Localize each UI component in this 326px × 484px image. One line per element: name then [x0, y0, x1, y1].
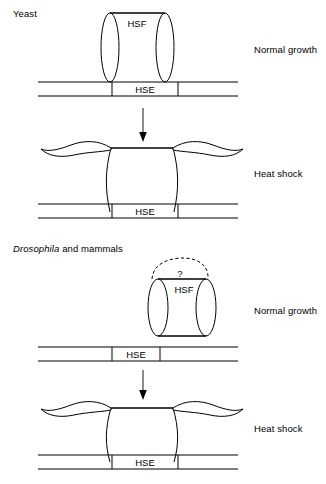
hsf-fly-left-end-ellipse: [148, 279, 168, 336]
hsf-left-end-ellipse: [101, 13, 119, 82]
hsf-left-wing: [41, 142, 111, 157]
hsf-hse-diagram: Yeast Normal growth Heat shock Drosophil…: [0, 0, 326, 484]
hsf-activated-yeast: [41, 142, 243, 212]
panel-yeast-normal: HSF HSE: [38, 13, 238, 96]
panel-fly-normal: ? HSF HSE: [38, 258, 238, 361]
hsf-right-wing-fly: [173, 402, 243, 417]
question-mark-label: ?: [177, 268, 182, 279]
transition-arrow-yeast: [139, 108, 147, 142]
dna-element-label-hse-yeast-normal: HSE: [135, 84, 155, 95]
panel-yeast-heatshock: HSE: [38, 142, 243, 218]
hsf-right-end-ellipse: [156, 13, 174, 82]
transition-arrow-fly: [139, 370, 147, 400]
dna-element-label-hse-fly-heatshock: HSE: [135, 457, 155, 468]
protein-label-hsf-yeast: HSF: [128, 18, 147, 29]
protein-label-hsf-fly: HSF: [175, 284, 194, 295]
hsf-right-wing: [173, 142, 243, 157]
diagram-canvas: HSF HSE: [0, 0, 326, 484]
dna-element-label-hse-yeast-heatshock: HSE: [135, 206, 155, 217]
hsf-fly-right-end-ellipse: [196, 279, 216, 336]
panel-fly-heatshock: HSE: [38, 402, 243, 469]
hsf-left-wing-fly: [41, 402, 111, 417]
hsf-activated-fly: [41, 402, 243, 462]
unknown-partner-bubble: ?: [152, 258, 208, 279]
dna-element-label-hse-fly-normal: HSE: [126, 349, 146, 360]
